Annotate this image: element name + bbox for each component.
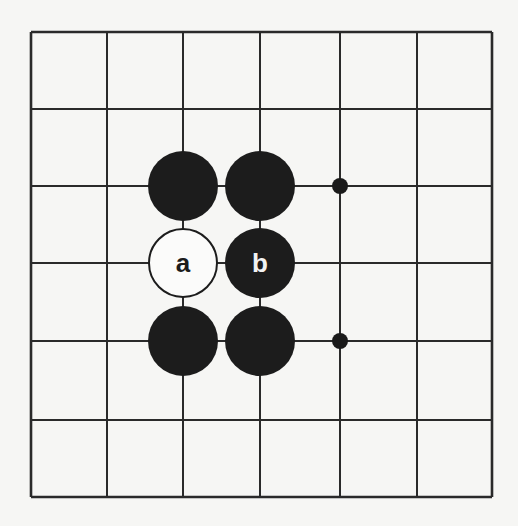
stone-label: b xyxy=(252,248,268,278)
marker-dot xyxy=(332,333,348,349)
black-stone xyxy=(148,306,218,376)
go-board-diagram: ab xyxy=(0,0,518,526)
black-stone xyxy=(225,306,295,376)
black-stone xyxy=(148,151,218,221)
black-stone xyxy=(225,151,295,221)
marker-dot xyxy=(332,178,348,194)
white-stone-a: a xyxy=(149,229,217,297)
stone-label: a xyxy=(176,248,191,278)
black-stone-b: b xyxy=(225,228,295,298)
